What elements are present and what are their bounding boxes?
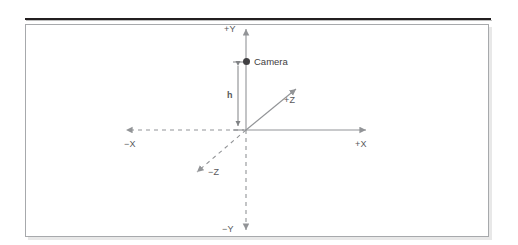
figure-page: Camera +Y −Y +X −X +Z −Z h bbox=[0, 0, 518, 245]
camera-marker-dot bbox=[243, 58, 250, 65]
axis-label-y-negative: −Y bbox=[222, 224, 234, 234]
height-label: h bbox=[227, 90, 233, 100]
axes-diagram bbox=[0, 0, 518, 245]
axis-z-negative bbox=[197, 130, 246, 172]
axis-label-z-positive: +Z bbox=[284, 95, 295, 105]
camera-label: Camera bbox=[254, 56, 288, 67]
axis-label-z-negative: −Z bbox=[208, 167, 219, 177]
axis-label-x-positive: +X bbox=[355, 139, 367, 149]
axis-label-y-positive: +Y bbox=[224, 24, 236, 34]
axis-label-x-negative: −X bbox=[124, 139, 136, 149]
